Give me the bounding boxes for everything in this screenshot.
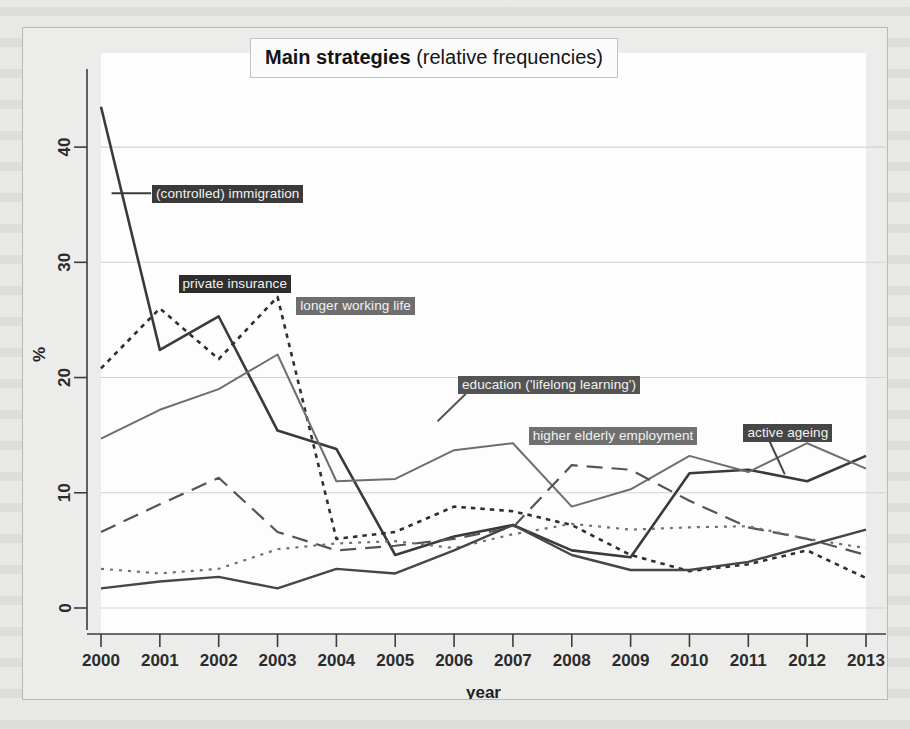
- x-tick-label: 2000: [82, 651, 120, 670]
- y-tick-label: 40: [56, 138, 75, 157]
- y-axis-title: %: [30, 347, 49, 362]
- x-tick-label: 2012: [788, 651, 826, 670]
- chart-title-strong: Main strategies: [265, 46, 411, 68]
- series-label-1: private insurance: [179, 275, 292, 293]
- x-tick-label: 2006: [435, 651, 473, 670]
- chart-title: Main strategies (relative frequencies): [250, 38, 618, 78]
- x-tick-label: 2007: [494, 651, 532, 670]
- series-label-4: higher elderly employment: [529, 427, 698, 445]
- x-tick-label: 2003: [259, 651, 297, 670]
- x-tick-label: 2010: [671, 651, 709, 670]
- x-tick-label: 2001: [141, 651, 179, 670]
- x-tick-label: 2005: [376, 651, 414, 670]
- series-label-0: (controlled) immigration: [152, 185, 303, 203]
- chart-title-rest: (relative frequencies): [411, 46, 603, 68]
- y-tick-label: 10: [56, 483, 75, 502]
- x-axis-title: year: [466, 683, 501, 699]
- y-tick-label: 20: [56, 368, 75, 387]
- x-tick-label: 2002: [200, 651, 238, 670]
- y-tick-label: 0: [56, 603, 75, 612]
- series-label-5: active ageing: [743, 424, 832, 442]
- figure-frame: 010203040%200020012002200320042005200620…: [22, 27, 888, 700]
- x-tick-label: 2004: [317, 651, 355, 670]
- plot-area: [101, 53, 866, 634]
- series-label-2: longer working life: [296, 297, 415, 315]
- x-tick-label: 2011: [730, 651, 767, 670]
- x-tick-label: 2009: [612, 651, 650, 670]
- line-chart: 010203040%200020012002200320042005200620…: [23, 28, 887, 699]
- series-label-3: education ('lifelong learning'): [458, 376, 640, 394]
- x-tick-label: 2008: [553, 651, 591, 670]
- x-tick-label: 2013: [847, 651, 885, 670]
- y-tick-label: 30: [56, 253, 75, 272]
